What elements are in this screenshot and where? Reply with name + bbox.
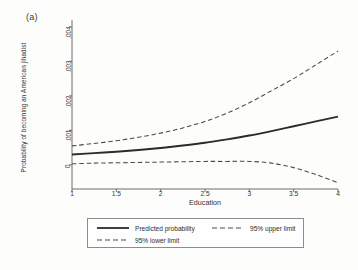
x-tick-label: 2.5	[200, 190, 209, 197]
x-tick-label: 3.5	[289, 190, 298, 197]
x-tick-label: 1	[70, 190, 74, 197]
x-tick-label: 4	[336, 190, 340, 197]
legend-label: Predicted probability	[135, 225, 195, 232]
legend-label: 95% lower limit	[135, 237, 179, 244]
x-axis-title: Education	[72, 198, 338, 207]
legend-key-dashed-upper	[211, 224, 245, 232]
axis-lines	[72, 20, 338, 189]
legend-key-dashed-lower	[96, 236, 130, 244]
legend-key-solid	[96, 224, 130, 232]
series-line	[72, 117, 338, 155]
x-tick-label: 2	[159, 190, 163, 197]
legend: Predicted probability 95% upper limit 95…	[87, 218, 304, 248]
legend-label: 95% upper limit	[250, 225, 295, 232]
series-line	[72, 51, 338, 146]
x-tick-label: 3	[247, 190, 251, 197]
series-line	[72, 161, 338, 183]
data-series	[72, 51, 338, 183]
legend-item-lower: 95% lower limit	[96, 236, 179, 244]
legend-item-predicted: Predicted probability	[96, 224, 195, 232]
x-tick-label: 1.5	[112, 190, 121, 197]
legend-item-upper: 95% upper limit	[211, 224, 295, 232]
figure-panel: (a) Probability of becoming an American …	[0, 0, 358, 270]
